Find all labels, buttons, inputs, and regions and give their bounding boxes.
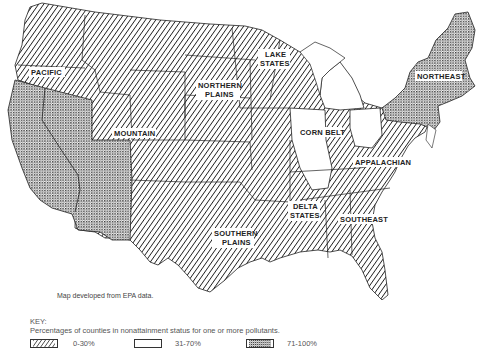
svg-text:NORTHEAST: NORTHEAST [417,72,466,81]
swatch-hatch-icon [30,339,58,348]
label-lake-states: LAKE STATES [258,49,290,69]
label-delta-states: DELTA STATES [288,201,320,221]
svg-text:NORTHERN: NORTHERN [198,81,242,90]
svg-text:SOUTHERN: SOUTHERN [214,229,258,238]
svg-text:SOUTHEAST: SOUTHEAST [340,215,388,224]
label-pacific: PACIFIC [29,67,65,77]
swatch-blank-icon [134,339,162,348]
svg-text:STATES: STATES [260,59,290,68]
swatch-stipple-icon [246,339,274,348]
label-mountain: MOUNTAIN [112,128,156,138]
svg-text:DELTA: DELTA [293,202,318,211]
label-northeast: NORTHEAST [415,71,466,81]
us-nonattainment-map: PACIFIC MOUNTAIN NORTHERN PLAINS LAKE ST… [0,0,483,300]
svg-text:LAKE: LAKE [265,50,286,59]
label-corn-belt: CORN BELT [298,127,345,137]
svg-text:CORN BELT: CORN BELT [300,128,345,137]
legend-label-low: 0-30% [73,339,95,348]
legend-label-mid: 31-70% [175,339,201,348]
legend: 0-30% 31-70% 71-100% [0,339,483,353]
svg-text:MOUNTAIN: MOUNTAIN [114,129,155,138]
label-appalachian: APPALACHIAN [353,157,411,167]
svg-text:PLAINS: PLAINS [222,238,251,247]
key-title: KEY: [30,317,47,326]
label-southern-plains: SOUTHERN PLAINS [212,228,258,248]
svg-text:APPALACHIAN: APPALACHIAN [355,158,411,167]
legend-label-high: 71-100% [287,339,317,348]
svg-text:PACIFIC: PACIFIC [31,68,62,77]
source-note: Map developed from EPA data. [57,292,153,299]
label-northern-plains: NORTHERN PLAINS [196,80,242,100]
key-description: Percentages of counties in nonattainment… [30,326,280,335]
svg-text:STATES: STATES [290,211,320,220]
svg-text:PLAINS: PLAINS [205,90,234,99]
label-southeast: SOUTHEAST [338,214,388,224]
